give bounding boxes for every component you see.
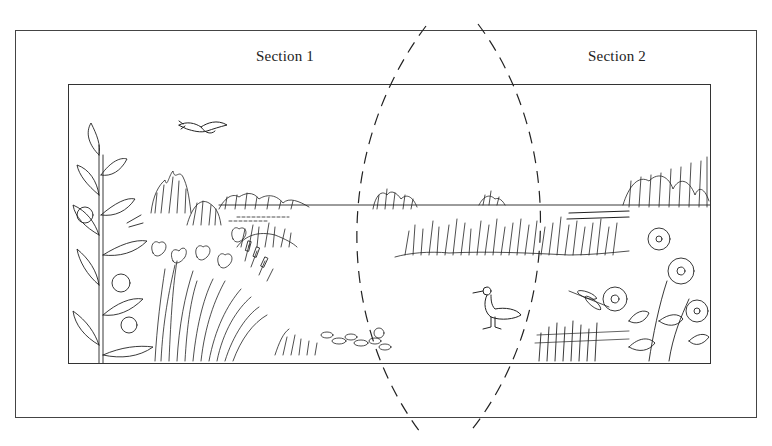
distant-shrubs [151,171,505,225]
section-1-label: Section 1 [256,48,314,65]
illustration-frame [68,84,711,364]
pond-scene [69,85,711,364]
wild-rose-bush-right [535,228,709,361]
section-2-label: Section 2 [588,48,646,65]
tall-flowering-plant-left [73,123,153,364]
iris-and-cattail-clump [152,228,273,361]
reed-bank-right [395,157,709,257]
grebe-bird-icon [473,287,521,329]
lily-pads [275,328,391,355]
flying-duck-icon [179,121,227,133]
